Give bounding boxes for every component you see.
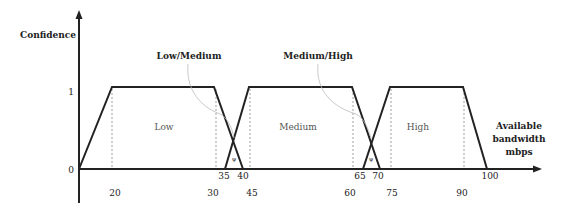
x-tick-30: 30 xyxy=(207,188,219,198)
y-axis-arrow-icon xyxy=(76,10,83,19)
y-axis-title: Confidence xyxy=(20,30,76,40)
x-tick-45: 45 xyxy=(246,188,258,198)
region-high-label: High xyxy=(407,122,429,132)
x-tick-75: 75 xyxy=(386,188,398,198)
x-axis-title-line3: mbps xyxy=(505,147,532,157)
x-tick-65: 65 xyxy=(354,171,366,181)
x-tick-90: 90 xyxy=(456,188,468,198)
x-tick-60: 60 xyxy=(344,188,356,198)
x-tick-20: 20 xyxy=(109,188,121,198)
x-tick-100: 100 xyxy=(481,171,498,181)
x-axis-title-line2: bandwidth xyxy=(492,134,546,144)
x-tick-35: 35 xyxy=(218,171,230,181)
x-tick-70: 70 xyxy=(372,171,384,181)
membership-function-diagram: ψ ψ Confidence 1 0 Low/Medium Medium/Hig… xyxy=(0,0,564,212)
medium-high-marker: ψ xyxy=(369,155,374,163)
low-medium-label: Low/Medium xyxy=(157,51,222,61)
y-tick-1: 1 xyxy=(68,87,74,97)
x-tick-40: 40 xyxy=(237,171,249,181)
medium-high-leader xyxy=(318,64,371,138)
x-axis-title-line1: Available xyxy=(495,121,542,131)
medium-high-label: Medium/High xyxy=(283,51,353,61)
region-medium-label: Medium xyxy=(279,122,317,132)
region-low-label: Low xyxy=(154,122,173,132)
y-tick-0: 0 xyxy=(68,165,74,175)
low-medium-marker: ψ xyxy=(232,155,237,163)
x-axis-arrow-icon xyxy=(533,166,542,173)
